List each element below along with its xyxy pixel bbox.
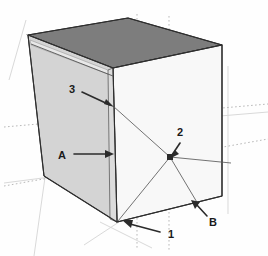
label-B: B [209, 216, 217, 228]
guide-faint-base-right [100, 222, 152, 248]
figure-root: 3 A 2 1 B [0, 0, 268, 256]
box-front-face [113, 45, 222, 222]
label-3: 3 [69, 83, 75, 95]
box-faces [28, 18, 222, 222]
guide-faint-upper-left [9, 20, 26, 80]
leader-B [196, 204, 207, 216]
point-2-marker [167, 154, 173, 160]
label-2: 2 [177, 126, 183, 138]
label-1: 1 [168, 228, 174, 240]
arrowhead-1 [122, 220, 133, 228]
leader-1 [130, 224, 160, 232]
isometric-box-diagram: 3 A 2 1 B [0, 0, 268, 256]
label-A: A [58, 149, 66, 161]
